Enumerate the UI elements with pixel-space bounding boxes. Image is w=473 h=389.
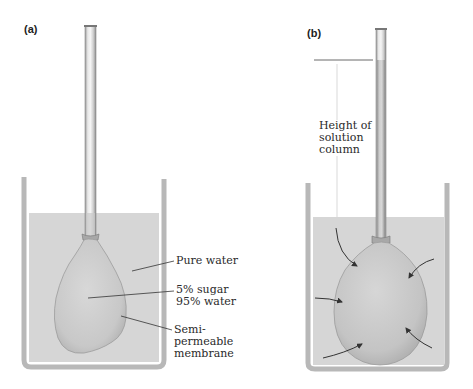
tube-a <box>85 26 96 236</box>
panel-a-label: (a) <box>24 23 37 35</box>
osmosis-diagram <box>0 0 473 389</box>
label-solution-line2: 95% water <box>176 296 236 308</box>
label-height-line3: column <box>319 144 362 156</box>
panel-a <box>24 25 174 367</box>
label-pure-water: Pure water <box>176 255 238 267</box>
label-membrane-line3: membrane <box>174 348 234 360</box>
solution-column <box>377 60 385 240</box>
panel-b-label: (b) <box>307 27 321 39</box>
panel-b <box>308 28 447 369</box>
